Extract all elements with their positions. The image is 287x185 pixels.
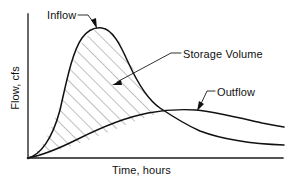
inflow-arrowhead — [91, 18, 97, 29]
outflow-leader — [197, 91, 215, 111]
inflow-leader — [78, 15, 97, 29]
inflow-label: Inflow — [47, 9, 76, 21]
outflow-label: Outflow — [217, 86, 255, 98]
storage-volume-region — [28, 28, 176, 158]
hydrograph-figure: Inflow Storage Volume Outflow Time, hour… — [0, 0, 287, 185]
outflow-arrowhead — [197, 101, 204, 111]
y-axis-label: Flow, cfs — [9, 58, 21, 118]
storage-volume-label: Storage Volume — [183, 48, 263, 60]
x-axis-label: Time, hours — [112, 164, 171, 176]
